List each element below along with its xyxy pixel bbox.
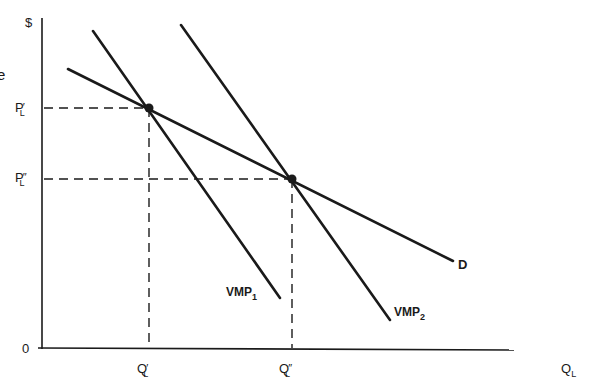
demand-label: D [458,258,467,271]
qty1-label: Q′L [137,362,148,375]
price1-label: P′L [15,101,25,114]
vmp1-main: VMP [226,285,252,299]
qty1-sub: L [143,369,148,379]
price1-sub: L [20,108,25,118]
qty2-sub: L [285,369,290,379]
demand-curve [68,69,453,261]
vmp1-label: VMP1 [226,286,257,298]
x-axis-sub: L [571,369,576,379]
equilibrium-point-2 [288,175,297,184]
x-axis [38,348,514,350]
y-axis-label: $ [25,16,32,29]
qty2-label: Q″L [279,362,290,375]
vmp2-curve [181,25,390,320]
cropped-text-fragment: e [0,67,5,82]
vmp1-curve [93,31,280,298]
vmp2-label: VMP2 [394,306,425,318]
price2-sub: L [20,178,25,188]
equilibrium-point-1 [145,104,154,113]
origin-label: 0 [22,342,29,355]
labor-demand-diagram [0,0,594,387]
x-axis-main: Q [561,361,571,376]
x-axis-label: QL [561,362,576,375]
vmp2-sub: 2 [420,312,425,322]
vmp1-sub: 1 [252,292,257,302]
price2-label: P″L [15,171,25,184]
vmp2-main: VMP [394,305,420,319]
